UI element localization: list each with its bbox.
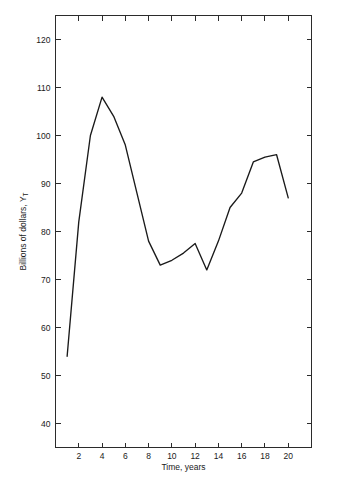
y-tick-label-90: 90 <box>41 179 51 189</box>
x-tick-label-14: 14 <box>214 451 224 461</box>
y-axis-title-main: Billions of dollars, Y <box>18 196 28 270</box>
x-tick-label-18: 18 <box>260 451 270 461</box>
x-tick-label-10: 10 <box>167 451 177 461</box>
y-tick-label-70: 70 <box>41 275 51 285</box>
y-tick-label-50: 50 <box>41 371 51 381</box>
chart-background <box>0 0 348 484</box>
x-tick-label-12: 12 <box>190 451 200 461</box>
y-axis-title-subscript: T <box>22 192 29 196</box>
y-tick-label-80: 80 <box>41 227 51 237</box>
x-tick-label-6: 6 <box>123 451 128 461</box>
y-tick-label-40: 40 <box>41 419 51 429</box>
x-tick-label-16: 16 <box>237 451 247 461</box>
x-tick-label-4: 4 <box>100 451 105 461</box>
y-tick-label-60: 60 <box>41 323 51 333</box>
y-tick-label-110: 110 <box>37 83 51 93</box>
y-tick-label-120: 120 <box>36 35 50 45</box>
line-chart: 405060708090100110120 2468101214161820 T… <box>0 0 348 484</box>
x-axis-title: Time, years <box>161 462 205 472</box>
x-tick-label-20: 20 <box>283 451 293 461</box>
x-tick-label-8: 8 <box>146 451 151 461</box>
y-tick-label-100: 100 <box>36 131 50 141</box>
y-axis-title: Billions of dollars, YT <box>18 192 29 270</box>
x-tick-label-2: 2 <box>76 451 81 461</box>
chart-container: 405060708090100110120 2468101214161820 T… <box>0 0 348 484</box>
